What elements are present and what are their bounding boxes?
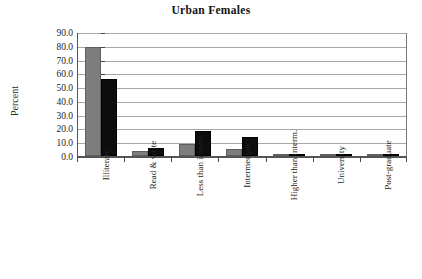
x-axis-tick-label: University <box>336 146 346 184</box>
x-axis-label-cell: Intermediate <box>218 163 265 275</box>
x-axis-tick-labels: IlliterateRead & writeLess than interm.I… <box>77 163 407 275</box>
x-axis-tick-mark <box>171 157 172 162</box>
x-axis-tick-label: Illiterate <box>101 150 111 180</box>
bar <box>101 79 117 156</box>
chart-title: Urban Females <box>0 4 422 16</box>
bar-group <box>359 33 406 156</box>
x-axis-tick-label: Higher than interm. <box>289 130 299 201</box>
x-axis-tick-mark <box>77 157 78 162</box>
bar <box>85 47 101 156</box>
x-axis-tick-mark <box>313 157 314 162</box>
y-axis-tick-label: 50.0 <box>28 83 73 94</box>
x-axis-tick-mark <box>218 157 219 162</box>
bar <box>320 154 336 156</box>
x-axis-tick-mark <box>406 157 407 162</box>
y-axis-tick-label: 90.0 <box>28 28 73 39</box>
bar <box>367 154 383 156</box>
y-axis-tick-label: 60.0 <box>28 69 73 80</box>
y-axis-tick-label: 20.0 <box>28 124 73 135</box>
x-axis-tick-mark <box>266 157 267 162</box>
x-axis-label-cell: Post-graduate <box>360 163 407 275</box>
y-axis-tick-label: 80.0 <box>28 42 73 53</box>
x-axis-label-cell: Higher than interm. <box>266 163 313 275</box>
y-axis-tick-label: 30.0 <box>28 111 73 122</box>
y-axis-tick-label: 0.0 <box>28 152 73 163</box>
y-axis-tick-labels: 90.080.070.060.050.040.030.020.010.00.0 <box>28 27 73 163</box>
bar-groups <box>78 33 406 156</box>
y-axis-tick-label: 40.0 <box>28 97 73 108</box>
x-axis-label-cell: University <box>313 163 360 275</box>
bar-group <box>78 33 125 156</box>
bar <box>132 151 148 156</box>
y-axis-tick-label: 70.0 <box>28 56 73 67</box>
y-axis-title: Percent <box>8 56 22 146</box>
x-axis-label-cell: Less than interm. <box>171 163 218 275</box>
chart-container: Urban Females Percent 90.080.070.060.050… <box>0 0 422 279</box>
bar <box>273 154 289 156</box>
bar-group <box>312 33 359 156</box>
x-axis-label-cell: Illiterate <box>77 163 124 275</box>
x-axis-tick-mark <box>360 157 361 162</box>
x-axis-tick-label: Read & write <box>148 141 158 190</box>
bar-group <box>125 33 172 156</box>
x-axis-label-cell: Read & write <box>124 163 171 275</box>
x-axis-tick-label: Intermediate <box>242 142 252 187</box>
bar-group <box>219 33 266 156</box>
x-axis-tick-mark <box>124 157 125 162</box>
x-axis-tick-label: Post-graduate <box>383 140 393 190</box>
bar <box>179 144 195 156</box>
x-axis-tick-label: Less than interm. <box>195 134 205 196</box>
bar <box>226 149 242 156</box>
y-axis-tick-label: 10.0 <box>28 138 73 149</box>
